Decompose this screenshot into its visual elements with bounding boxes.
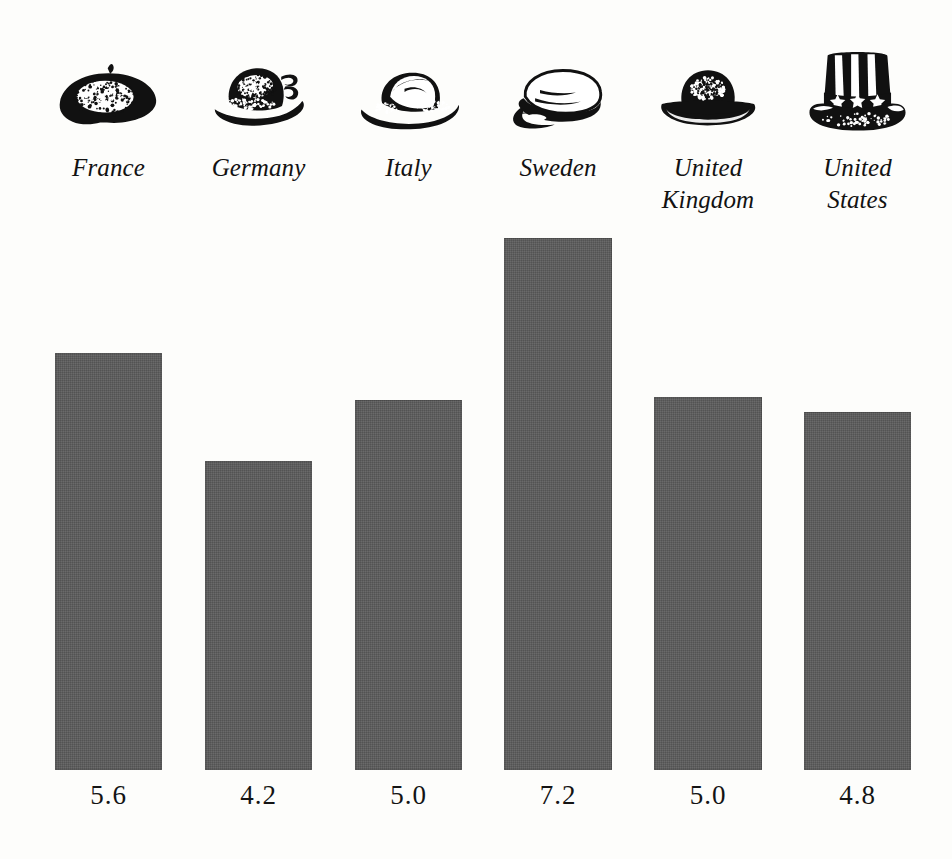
category-label: Germany [187, 152, 330, 184]
category-label: UnitedStates [786, 152, 929, 216]
chart-columns: France5.6 Germany4.2 Italy5.0 [0, 0, 952, 859]
bar-value-label: 5.0 [634, 780, 782, 811]
category-label-line: Sweden [486, 152, 630, 184]
bar [55, 353, 162, 770]
bar [804, 412, 911, 770]
alpine-hat-icon [205, 30, 312, 145]
chart-column: UnitedKingdom5.0 [654, 0, 762, 859]
swedish-cap-icon [504, 30, 612, 145]
category-label-line: Italy [337, 152, 480, 184]
category-label-line: Kingdom [636, 184, 780, 216]
category-label-line: Germany [187, 152, 330, 184]
bar-value-label: 5.6 [35, 780, 182, 811]
category-label: UnitedKingdom [636, 152, 780, 216]
category-label-line: States [786, 184, 929, 216]
category-label: Sweden [486, 152, 630, 184]
bar [654, 397, 762, 770]
bar-value-label: 5.0 [335, 780, 482, 811]
category-label-line: France [37, 152, 180, 184]
beret-hat-icon [55, 30, 162, 145]
bar-value-label: 4.8 [784, 780, 931, 811]
bar [355, 400, 462, 770]
bowler-hat-icon [654, 30, 762, 145]
bar [205, 461, 312, 770]
chart-column: Sweden7.2 [504, 0, 612, 859]
category-label-line: United [636, 152, 780, 184]
category-label: Italy [337, 152, 480, 184]
chart-column: UnitedStates4.8 [804, 0, 911, 859]
chart-column: Germany4.2 [205, 0, 312, 859]
hat-bar-chart: France5.6 Germany4.2 Italy5.0 [0, 0, 952, 859]
category-label-line: United [786, 152, 929, 184]
fedora-hat-icon [355, 30, 462, 145]
category-label: France [37, 152, 180, 184]
bar-value-label: 7.2 [484, 780, 632, 811]
chart-column: France5.6 [55, 0, 162, 859]
top-hat-icon [804, 30, 911, 145]
chart-column: Italy5.0 [355, 0, 462, 859]
bar-value-label: 4.2 [185, 780, 332, 811]
bar [504, 238, 612, 770]
